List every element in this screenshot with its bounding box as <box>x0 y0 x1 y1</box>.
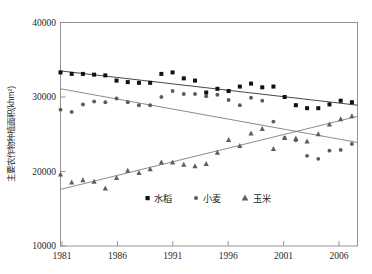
data-point-rice <box>126 80 130 84</box>
data-point-wheat <box>171 89 175 93</box>
data-point-wheat <box>81 103 85 107</box>
data-point-corn <box>103 186 108 191</box>
data-point-wheat <box>182 92 186 96</box>
legend-marker-square <box>146 196 150 200</box>
data-point-wheat <box>316 157 320 161</box>
x-tick-label: 1996 <box>219 251 238 261</box>
data-point-wheat <box>204 94 208 98</box>
data-point-corn <box>304 139 309 144</box>
y-tick-label: 40000 <box>32 18 56 28</box>
data-point-rice <box>182 76 186 80</box>
data-point-wheat <box>148 103 152 107</box>
data-point-wheat <box>339 148 343 152</box>
data-point-wheat <box>215 93 219 97</box>
x-axis-tick-labels: 1981 1986 1991 1996 2001 2006 <box>53 251 349 261</box>
data-point-rice <box>249 82 253 86</box>
y-axis-title: 主要农作物种植面积(khm²) <box>6 86 16 182</box>
data-point-wheat <box>227 98 231 102</box>
x-tick-label: 2006 <box>330 251 349 261</box>
x-tick-label: 1991 <box>163 251 182 261</box>
legend-marker-circle <box>194 196 198 200</box>
trendline-group <box>61 71 358 189</box>
data-point-rice <box>260 85 264 89</box>
data-point-rice <box>294 103 298 107</box>
data-point-wheat <box>59 108 63 112</box>
data-point-corn <box>80 177 85 182</box>
data-point-corn <box>192 163 197 168</box>
data-point-wheat <box>115 97 119 101</box>
data-point-rice <box>327 102 331 106</box>
data-point-wheat <box>70 110 74 114</box>
x-axis-ticks <box>62 241 339 246</box>
data-point-corn <box>125 168 130 173</box>
data-point-corn <box>248 130 253 135</box>
y-tick-label: 20000 <box>32 167 56 177</box>
data-point-corn <box>349 113 354 118</box>
y-axis-ticks <box>61 23 66 247</box>
trendline-corn <box>61 116 358 189</box>
data-point-corn <box>181 162 186 167</box>
data-point-corn <box>69 180 74 185</box>
data-point-rice <box>227 89 231 93</box>
data-point-rice <box>305 106 309 110</box>
crop-area-scatter-chart: 40000 30000 20000 10000 1981 1986 1991 1… <box>0 0 372 274</box>
data-point-rice <box>283 95 287 99</box>
data-point-rice <box>193 79 197 83</box>
data-point-corn <box>293 136 298 141</box>
legend-label-corn: 玉米 <box>253 193 271 204</box>
y-tick-label: 30000 <box>32 92 56 102</box>
legend-marker-triangle <box>242 195 249 201</box>
x-tick-label: 1981 <box>53 251 72 261</box>
data-point-rice <box>81 72 85 76</box>
legend-label-wheat: 小麦 <box>203 193 221 204</box>
data-point-wheat <box>137 103 141 107</box>
series-rice-points <box>59 70 354 110</box>
x-tick-label: 2001 <box>274 251 293 261</box>
data-point-wheat <box>193 92 197 96</box>
data-point-corn <box>271 146 276 151</box>
data-point-rice <box>148 81 152 85</box>
data-point-wheat <box>92 100 96 104</box>
trendline-wheat <box>61 89 358 143</box>
data-point-corn <box>226 137 231 142</box>
data-point-corn <box>338 116 343 121</box>
data-point-rice <box>350 100 354 104</box>
data-point-corn <box>316 131 321 136</box>
y-tick-label: 10000 <box>32 241 56 251</box>
data-point-rice <box>171 70 175 74</box>
data-point-rice <box>339 99 343 103</box>
data-point-wheat <box>238 103 242 107</box>
data-point-corn <box>204 161 209 166</box>
data-point-rice <box>137 81 141 85</box>
data-point-rice <box>92 73 96 77</box>
data-point-rice <box>159 72 163 76</box>
data-point-rice <box>238 85 242 89</box>
data-point-wheat <box>126 100 130 104</box>
data-point-rice <box>271 85 275 89</box>
data-point-rice <box>59 70 63 74</box>
data-point-rice <box>103 73 107 77</box>
x-tick-label: 1986 <box>108 251 127 261</box>
data-point-rice <box>316 106 320 110</box>
data-point-wheat <box>103 100 107 104</box>
data-point-rice <box>70 72 74 76</box>
data-point-corn <box>58 171 63 176</box>
legend-label-rice: 水稻 <box>154 193 172 204</box>
data-point-corn <box>260 126 265 131</box>
data-point-corn <box>159 159 164 164</box>
data-point-wheat <box>249 96 253 100</box>
data-point-wheat <box>159 95 163 99</box>
data-point-wheat <box>328 149 332 153</box>
data-point-rice <box>115 79 119 83</box>
data-point-wheat <box>271 120 275 124</box>
chart-legend: 水稻 小麦 玉米 <box>146 193 271 204</box>
data-point-wheat <box>350 142 354 146</box>
y-axis-tick-labels: 40000 30000 20000 10000 <box>32 18 56 252</box>
chart-figure: 40000 30000 20000 10000 1981 1986 1991 1… <box>0 0 372 274</box>
data-point-wheat <box>305 154 309 158</box>
data-point-rice <box>215 87 219 91</box>
data-point-rice <box>204 91 208 95</box>
data-point-wheat <box>260 99 264 103</box>
